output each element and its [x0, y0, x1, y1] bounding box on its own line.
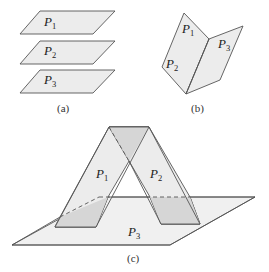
plane-p2-a: [20, 41, 115, 64]
panel-c: P1 P2 P3 (c): [12, 127, 255, 265]
plane-p1-a: [20, 11, 115, 34]
panel-b: P1 P2 P3 (b): [162, 13, 243, 115]
caption-a: (a): [57, 102, 70, 115]
caption-b: (b): [191, 102, 204, 115]
three-planes-figure: P1 P2 P3 (a) P1 P2 P3 (b): [0, 0, 269, 272]
plane-p3-a: [20, 70, 115, 93]
panel-a: P1 P2 P3 (a): [20, 11, 115, 115]
caption-c: (c): [127, 252, 140, 265]
